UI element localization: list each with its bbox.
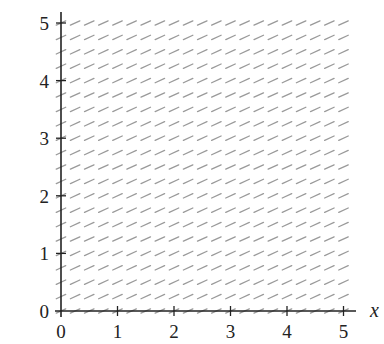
slope-segment (254, 150, 263, 154)
slope-segment (127, 150, 136, 154)
slope-segment (70, 208, 79, 212)
slope-segment (268, 136, 277, 140)
slope-segment (113, 93, 122, 97)
slope-segment (240, 136, 249, 140)
slope-segment (141, 78, 150, 82)
slope-segment (183, 64, 192, 68)
slope-segment (155, 122, 164, 126)
slope-segment (169, 280, 178, 284)
slope-segment (254, 179, 263, 183)
slope-segment (141, 280, 150, 284)
slope-segment (311, 266, 320, 270)
slope-segment (99, 93, 108, 97)
slope-segment (212, 35, 221, 39)
slope-segment (85, 122, 94, 126)
slope-segment (282, 50, 291, 54)
slope-segment (325, 64, 334, 68)
slope-segment (70, 93, 79, 97)
slope-segment (169, 150, 178, 154)
slope-segment (127, 122, 136, 126)
slope-segment (85, 179, 94, 183)
slope-segment (226, 35, 235, 39)
slope-segment (296, 64, 305, 68)
slope-segment (240, 194, 249, 198)
slope-segment (226, 266, 235, 270)
slope-segment (113, 122, 122, 126)
slope-segment (212, 179, 221, 183)
slope-segment (311, 251, 320, 255)
slope-segment (282, 21, 291, 25)
slope-segment (282, 165, 291, 169)
slope-segment (226, 21, 235, 25)
slope-segment (169, 222, 178, 226)
slope-segment (113, 107, 122, 111)
slope-segment (198, 107, 207, 111)
slope-segment (155, 136, 164, 140)
slope-segment (99, 64, 108, 68)
slope-segment (339, 165, 348, 169)
slope-segment (113, 136, 122, 140)
slope-segment (85, 280, 94, 284)
slope-segment (183, 150, 192, 154)
slope-segment (226, 107, 235, 111)
slope-segment (141, 294, 150, 298)
slope-segment (212, 280, 221, 284)
slope-segment (296, 294, 305, 298)
slope-segment (339, 50, 348, 54)
slope-segment (311, 122, 320, 126)
slope-segment (296, 107, 305, 111)
slope-segment (311, 222, 320, 226)
slope-segment (99, 165, 108, 169)
slope-segment (198, 150, 207, 154)
slope-segment (70, 165, 79, 169)
slope-segment (339, 294, 348, 298)
slope-segment (141, 237, 150, 241)
x-tick-label: 0 (56, 321, 66, 342)
slope-segment (339, 179, 348, 183)
slope-segment (339, 237, 348, 241)
slope-segment (127, 237, 136, 241)
slope-segment (183, 107, 192, 111)
slope-segment (339, 194, 348, 198)
slope-segment (282, 93, 291, 97)
slope-segment (169, 78, 178, 82)
slope-segment (254, 21, 263, 25)
slope-segment (296, 78, 305, 82)
slope-segment (99, 50, 108, 54)
slope-segment (254, 93, 263, 97)
slope-segment (183, 165, 192, 169)
slope-segment (268, 150, 277, 154)
slope-segment (226, 237, 235, 241)
slope-segment (240, 280, 249, 284)
slope-segment (99, 122, 108, 126)
slope-segment (99, 150, 108, 154)
slope-segment (127, 78, 136, 82)
slope-segment (268, 266, 277, 270)
slope-segment (113, 64, 122, 68)
slope-segment (113, 266, 122, 270)
slope-segment (70, 107, 79, 111)
slope-segment (70, 179, 79, 183)
slope-segment (311, 294, 320, 298)
slope-segment (339, 251, 348, 255)
slope-segment (99, 136, 108, 140)
slope-segment (169, 122, 178, 126)
slope-segment (339, 150, 348, 154)
slope-segment (339, 222, 348, 226)
slope-segment (268, 237, 277, 241)
slope-segment (113, 237, 122, 241)
slope-segment (85, 35, 94, 39)
slope-segment (113, 179, 122, 183)
slope-segment (254, 222, 263, 226)
slope-segment (169, 179, 178, 183)
slope-segment (240, 179, 249, 183)
slope-segment (226, 280, 235, 284)
slope-segment (254, 122, 263, 126)
slope-segment (282, 251, 291, 255)
slope-segment (155, 251, 164, 255)
slope-segment (141, 64, 150, 68)
slope-segment (226, 78, 235, 82)
slope-segment (325, 294, 334, 298)
slope-segment (282, 194, 291, 198)
slope-segment (212, 294, 221, 298)
